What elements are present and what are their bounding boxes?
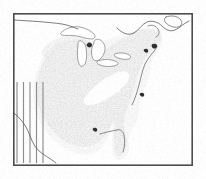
map-canvas [0, 0, 206, 179]
range-map-figure [0, 0, 206, 179]
